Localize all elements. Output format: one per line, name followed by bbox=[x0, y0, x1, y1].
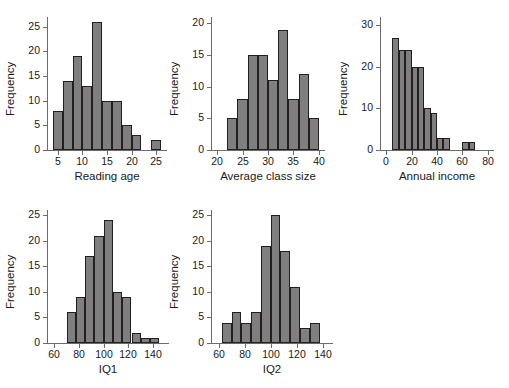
y-tick-average-class-size-1 bbox=[207, 118, 211, 119]
histogram-bar bbox=[251, 312, 261, 343]
x-axis-iq1 bbox=[47, 343, 169, 344]
histogram-bar bbox=[309, 118, 319, 150]
y-axis-title-average-class-size: Frequency bbox=[168, 61, 180, 115]
y-tick-label-average-class-size-3: 15 bbox=[172, 49, 204, 60]
y-tick-annual-income-1 bbox=[376, 108, 380, 109]
y-tick-iq1-4 bbox=[43, 241, 47, 242]
y-tick-iq2-2 bbox=[207, 292, 211, 293]
histogram-bar bbox=[258, 55, 268, 150]
histogram-bar bbox=[63, 81, 73, 150]
y-tick-reading-age-1 bbox=[43, 125, 47, 126]
histogram-bar bbox=[76, 297, 85, 343]
y-axis-annual-income bbox=[380, 17, 381, 150]
histogram-bar bbox=[268, 80, 278, 150]
histogram-bar bbox=[261, 246, 271, 343]
y-tick-iq1-0 bbox=[43, 343, 47, 344]
y-axis-title-annual-income: Frequency bbox=[337, 61, 349, 115]
histogram-bar bbox=[151, 140, 161, 150]
histogram-bar bbox=[132, 135, 142, 150]
y-tick-average-class-size-0 bbox=[207, 150, 211, 151]
y-axis-average-class-size bbox=[211, 17, 212, 150]
y-tick-iq2-4 bbox=[207, 241, 211, 242]
y-tick-reading-age-2 bbox=[43, 101, 47, 102]
histogram-bar bbox=[104, 220, 113, 343]
y-tick-iq1-2 bbox=[43, 292, 47, 293]
histogram-bar bbox=[300, 328, 310, 343]
y-tick-label-iq2-1: 5 bbox=[172, 311, 204, 322]
y-tick-average-class-size-3 bbox=[207, 55, 211, 56]
y-axis-title-iq1: Frequency bbox=[4, 254, 16, 308]
y-tick-annual-income-3 bbox=[376, 25, 380, 26]
y-tick-label-average-class-size-4: 20 bbox=[172, 17, 204, 28]
x-axis-title-iq2: IQ2 bbox=[202, 363, 342, 375]
histogram-bar bbox=[92, 22, 102, 150]
histogram-bar bbox=[112, 101, 122, 150]
y-axis-iq1 bbox=[47, 210, 48, 343]
histogram-bar bbox=[227, 118, 237, 150]
y-tick-label-iq1-4: 20 bbox=[8, 235, 40, 246]
histogram-bar bbox=[150, 338, 159, 343]
y-tick-label-iq2-0: 0 bbox=[172, 337, 204, 348]
histogram-bar bbox=[469, 142, 475, 150]
y-tick-average-class-size-2 bbox=[207, 87, 211, 88]
histogram-bar bbox=[232, 312, 242, 343]
histogram-bar bbox=[113, 292, 122, 343]
histogram-bar bbox=[85, 256, 94, 343]
x-axis-title-iq1: IQ1 bbox=[38, 363, 178, 375]
y-tick-annual-income-0 bbox=[376, 150, 380, 151]
histogram-bar bbox=[280, 251, 290, 343]
y-tick-reading-age-0 bbox=[43, 150, 47, 151]
y-tick-iq1-5 bbox=[43, 215, 47, 216]
y-tick-average-class-size-4 bbox=[207, 23, 211, 24]
y-tick-iq2-5 bbox=[207, 215, 211, 216]
y-tick-label-iq1-5: 25 bbox=[8, 209, 40, 220]
histogram-bar bbox=[299, 74, 309, 150]
y-tick-label-reading-age-5: 25 bbox=[8, 21, 40, 32]
x-axis-title-reading-age: Reading age bbox=[37, 170, 177, 182]
y-axis-iq2 bbox=[211, 210, 212, 343]
histogram-bar bbox=[278, 30, 288, 150]
histogram-bar bbox=[290, 287, 300, 343]
x-axis-iq2 bbox=[211, 343, 333, 344]
y-tick-reading-age-5 bbox=[43, 27, 47, 28]
y-tick-iq2-0 bbox=[207, 343, 211, 344]
histogram-bar bbox=[82, 86, 92, 150]
y-tick-annual-income-2 bbox=[376, 67, 380, 68]
histogram-bar bbox=[94, 236, 103, 343]
histogram-bar bbox=[122, 297, 131, 343]
y-tick-iq1-3 bbox=[43, 266, 47, 267]
y-tick-label-annual-income-0: 0 bbox=[341, 144, 373, 155]
y-axis-reading-age bbox=[47, 17, 48, 150]
x-tick-label-iq1-4: 140 bbox=[133, 349, 173, 360]
y-tick-label-reading-age-1: 5 bbox=[8, 119, 40, 130]
y-tick-label-iq1-1: 5 bbox=[8, 311, 40, 322]
y-tick-label-annual-income-3: 30 bbox=[341, 19, 373, 30]
histogram-bar bbox=[53, 111, 63, 150]
x-tick-label-average-class-size-4: 40 bbox=[299, 156, 339, 167]
histogram-figure: 0510152025510152025Reading ageFrequency0… bbox=[0, 0, 509, 388]
y-axis-title-iq2: Frequency bbox=[168, 254, 180, 308]
histogram-bar bbox=[102, 101, 112, 150]
y-tick-label-reading-age-4: 20 bbox=[8, 45, 40, 56]
histogram-bar bbox=[67, 312, 76, 343]
x-tick-label-iq2-4: 140 bbox=[303, 349, 343, 360]
histogram-bar bbox=[73, 56, 83, 150]
y-tick-iq1-1 bbox=[43, 317, 47, 318]
y-tick-label-reading-age-0: 0 bbox=[8, 144, 40, 155]
y-tick-label-average-class-size-0: 0 bbox=[172, 144, 204, 155]
histogram-bar bbox=[443, 138, 449, 150]
histogram-bar bbox=[271, 215, 281, 343]
histogram-bar bbox=[222, 323, 232, 343]
y-tick-reading-age-4 bbox=[43, 51, 47, 52]
y-tick-iq2-3 bbox=[207, 266, 211, 267]
histogram-bar bbox=[241, 323, 251, 343]
x-tick-label-annual-income-4: 80 bbox=[468, 156, 508, 167]
y-tick-label-iq2-4: 20 bbox=[172, 235, 204, 246]
y-axis-title-reading-age: Frequency bbox=[4, 61, 16, 115]
histogram-bar bbox=[132, 333, 141, 343]
histogram-bar bbox=[248, 55, 258, 150]
x-tick-label-reading-age-4: 25 bbox=[136, 156, 176, 167]
y-tick-label-iq1-0: 0 bbox=[8, 337, 40, 348]
histogram-bar bbox=[288, 99, 298, 150]
x-axis-title-annual-income: Annual income bbox=[367, 170, 507, 182]
